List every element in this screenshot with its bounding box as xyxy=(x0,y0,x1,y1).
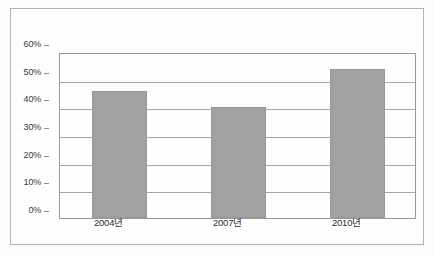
x-tick-label: 2010년 xyxy=(307,217,387,228)
y-tick-label: 10% xyxy=(7,178,41,187)
bar-2007년 xyxy=(211,107,266,218)
x-tick-label: 2007년 xyxy=(188,217,268,228)
y-tick-mark xyxy=(44,156,49,157)
y-tick-mark xyxy=(44,211,49,212)
y-tick-label: 0% xyxy=(7,206,41,215)
y-tick-mark xyxy=(44,183,49,184)
plot-area xyxy=(59,53,416,219)
bar-2004년 xyxy=(92,91,147,218)
y-tick-label: 60% xyxy=(7,40,41,49)
y-tick-mark xyxy=(44,45,49,46)
chart-outer-frame: 2004년2007년2010년 0%10%20%30%40%50%60% xyxy=(10,8,424,245)
x-tick-label: 2004년 xyxy=(69,217,149,228)
y-tick-mark xyxy=(44,100,49,101)
y-tick-mark xyxy=(44,73,49,74)
y-tick-label: 40% xyxy=(7,95,41,104)
chart-figure: 2004년2007년2010년 0%10%20%30%40%50%60% xyxy=(0,0,434,255)
y-tick-mark xyxy=(44,128,49,129)
y-tick-label: 30% xyxy=(7,123,41,132)
y-tick-label: 50% xyxy=(7,68,41,77)
y-tick-label: 20% xyxy=(7,151,41,160)
bar-2010년 xyxy=(330,69,385,218)
